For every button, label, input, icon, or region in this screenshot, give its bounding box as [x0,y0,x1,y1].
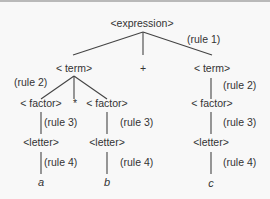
edge-term_left-to-factor_b [74,76,107,99]
node-plus: + [140,62,146,74]
rule-label: (rule 1) [187,33,220,45]
node-letter-b: <letter> [89,136,125,148]
node-times: * [73,97,77,109]
rule-label: (rule 3) [223,116,256,128]
node-letter-a: <letter> [23,136,59,148]
rule-label: (rule 4) [223,156,256,168]
node-factor-b: < factor> [86,97,127,109]
rule-label: (rule 2) [223,79,256,91]
parse-tree-diagram: <expression>< term>+< term>< factor>*< f… [0,2,270,199]
node-term-right: < term> [194,62,230,74]
node-factor-a: < factor> [20,97,61,109]
rule-label: (rule 2) [14,76,47,88]
node-b: b [104,176,110,188]
rule-label: (rule 3) [120,116,153,128]
node-expression: <expression> [110,17,173,29]
node-letter-c: <letter> [193,136,229,148]
node-factor-c: < factor> [191,97,232,109]
rule-label: (rule 3) [44,116,77,128]
diagram-frame: <expression>< term>+< term>< factor>*< f… [0,0,270,199]
node-a: a [38,176,44,188]
edge-expression-to-term_left [73,32,143,55]
rule-label: (rule 4) [44,156,77,168]
node-term-left: < term> [56,62,92,74]
rule-label: (rule 4) [120,156,153,168]
node-c: c [208,177,214,189]
